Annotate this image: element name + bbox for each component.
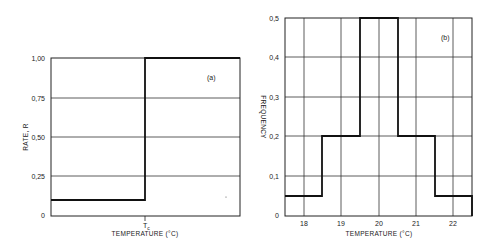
chart-b-xtick: 20 [375,220,383,227]
chart-a-ytick: 0,50 [31,134,45,141]
chart-b-ytick: 0 [275,212,279,219]
chart-b-panel-label: (b) [441,34,450,42]
chart-b-ytick: 0,1 [269,173,279,180]
chart-b-xtick: 18 [300,220,308,227]
chart-a-ytick: 0,75 [31,95,45,102]
chart-b-frame [285,18,472,216]
chart-a: 0 0,25 0,50 0,75 1,00 Tc TEMPERATURE (°C… [22,55,240,238]
chart-a-ytick: 0,25 [31,173,45,180]
chart-a-speck [225,196,226,197]
chart-b-histogram-outline [285,18,472,216]
chart-b-x-axis-title: TEMPERATURE (°C) [346,230,413,238]
chart-b-xtick: 21 [412,220,420,227]
chart-a-ytick: 1,00 [31,55,45,62]
chart-b-v-gridlines [304,18,453,216]
chart-b-h-gridlines [285,57,472,176]
chart-b-ytick: 0,3 [269,94,279,101]
chart-b: 0 0,1 0,2 0,3 0,4 0,5 18 19 20 21 22 TEM… [259,15,472,238]
chart-b-ytick: 0,2 [269,133,279,140]
chart-a-y-axis-title: RATE, R [22,123,29,150]
chart-b-y-axis-title: FREQUENCY [259,95,267,139]
chart-b-xtick: 22 [449,220,457,227]
chart-a-x-axis-title: TEMPERATURE (°C) [112,230,179,238]
chart-a-ytick: 0 [41,212,45,219]
figure: 0 0,25 0,50 0,75 1,00 Tc TEMPERATURE (°C… [0,0,497,246]
chart-a-panel-label: (a) [207,74,216,82]
chart-b-ytick: 0,5 [269,15,279,22]
chart-b-xtick: 19 [337,220,345,227]
chart-b-ytick: 0,4 [269,54,279,61]
